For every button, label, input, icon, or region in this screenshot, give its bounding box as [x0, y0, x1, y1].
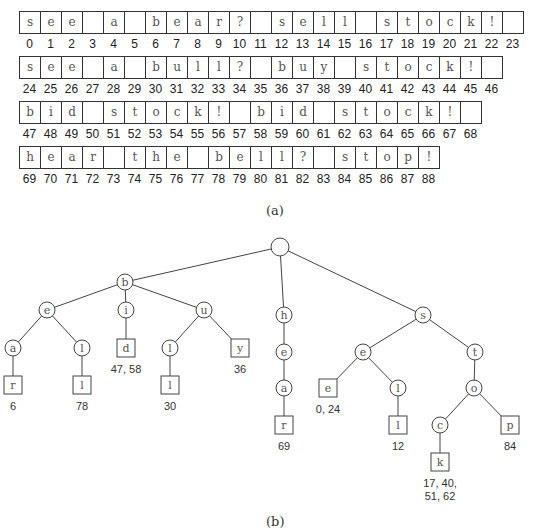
- array-cell: [314, 147, 335, 168]
- array-index: 62: [334, 127, 355, 141]
- array-cell: [335, 57, 356, 78]
- array-index: 35: [250, 82, 271, 96]
- trie-internal-node: e: [355, 344, 371, 360]
- array-index: 78: [208, 172, 229, 186]
- array-indices: 2425262728293031323334353637383940414243…: [19, 82, 503, 96]
- array-cell: i: [41, 102, 62, 123]
- trie-node-label: e: [44, 304, 51, 317]
- array-index: 59: [271, 127, 292, 141]
- trie-node-label: a: [10, 342, 17, 355]
- array-index: 23: [502, 37, 523, 51]
- trie-leaf-node: p: [501, 416, 519, 434]
- array-cell: e: [62, 12, 83, 33]
- array-cell: b: [251, 102, 272, 123]
- array-index: 37: [292, 82, 313, 96]
- array-cells: seeabull?buystock!: [19, 56, 503, 79]
- array-cell: e: [41, 147, 62, 168]
- array-indices: 4748495051525354555657585960616263646566…: [19, 127, 482, 141]
- trie-leaf-node: l: [161, 376, 179, 394]
- array-cell: [461, 102, 482, 123]
- array-index: 15: [334, 37, 355, 51]
- trie-edge: [125, 247, 280, 282]
- array-index: 43: [418, 82, 439, 96]
- array-cell: [251, 12, 272, 33]
- array-index: 79: [229, 172, 250, 186]
- occurrence-positions: 30: [164, 400, 176, 412]
- array-index: 30: [145, 82, 166, 96]
- array-index: 2: [61, 37, 82, 51]
- array-cell: e: [167, 147, 188, 168]
- array-index: 71: [61, 172, 82, 186]
- array-index: 57: [229, 127, 250, 141]
- caption-b: (b): [266, 514, 284, 529]
- array-index: 72: [82, 172, 103, 186]
- array-cell: ?: [230, 12, 251, 33]
- trie-node-label: e: [325, 382, 332, 395]
- array-index: 11: [250, 37, 271, 51]
- array-cell: [83, 12, 104, 33]
- array-cell: e: [293, 12, 314, 33]
- trie-internal-node: l: [162, 340, 178, 356]
- trie-edge: [363, 315, 423, 352]
- array-cell: !: [461, 57, 482, 78]
- trie-internal-node: u: [196, 302, 212, 318]
- array-index: 58: [250, 127, 271, 141]
- array-cell: l: [188, 57, 209, 78]
- array-index: 82: [292, 172, 313, 186]
- array-cell: ?: [293, 147, 314, 168]
- array-cell: u: [167, 57, 188, 78]
- array-index: 53: [145, 127, 166, 141]
- array-cell: s: [335, 147, 356, 168]
- text-array: seeabear?sellstock!012345678910111213141…: [0, 0, 536, 200]
- trie-node-label: h: [280, 309, 287, 322]
- trie-node-label: a: [281, 382, 288, 395]
- array-cell: [314, 102, 335, 123]
- array-cell: l: [314, 12, 335, 33]
- trie-node-label: e: [360, 346, 367, 359]
- array-cell: b: [272, 57, 293, 78]
- trie-edge: [47, 282, 125, 310]
- array-index: 31: [166, 82, 187, 96]
- array-row: seeabear?sellstock!012345678910111213141…: [19, 11, 524, 51]
- trie-node-label: k: [437, 456, 444, 469]
- array-index: 39: [334, 82, 355, 96]
- array-index: 17: [376, 37, 397, 51]
- array-index: 3: [82, 37, 103, 51]
- array-cell: l: [251, 147, 272, 168]
- array-index: 56: [208, 127, 229, 141]
- array-cell: [251, 57, 272, 78]
- compressed-trie: bhseiualdlyrllearetellocpk67847, 5830366…: [0, 230, 536, 525]
- trie-node-label: l: [396, 419, 400, 432]
- array-index: 22: [481, 37, 502, 51]
- array-index: 77: [187, 172, 208, 186]
- array-index: 5: [124, 37, 145, 51]
- array-cell: a: [104, 12, 125, 33]
- array-index: 87: [397, 172, 418, 186]
- trie-leaf-node: l: [389, 416, 407, 434]
- array-index: 28: [103, 82, 124, 96]
- array-indices: 01234567891011121314151617181920212223: [19, 37, 524, 51]
- array-cell: o: [377, 147, 398, 168]
- trie-node-label: l: [168, 379, 172, 392]
- occurrence-positions: 51, 62: [425, 490, 456, 502]
- trie-leaf-node: d: [117, 339, 135, 357]
- trie-internal-node: a: [5, 340, 21, 356]
- array-cell: h: [20, 147, 41, 168]
- array-cell: c: [419, 57, 440, 78]
- array-index: 38: [313, 82, 334, 96]
- trie-internal-node: e: [276, 344, 292, 360]
- trie-internal-node: o: [466, 380, 482, 396]
- array-row: bidstock!bidstock!4748495051525354555657…: [19, 101, 482, 141]
- array-cell: !: [440, 102, 461, 123]
- array-cell: [188, 147, 209, 168]
- array-cell: l: [335, 12, 356, 33]
- array-cell: [125, 12, 146, 33]
- array-index: 1: [40, 37, 61, 51]
- array-index: 70: [40, 172, 61, 186]
- array-cell: a: [62, 147, 83, 168]
- trie-node-label: s: [420, 309, 426, 322]
- occurrence-positions: 84: [504, 440, 516, 452]
- array-cell: s: [377, 12, 398, 33]
- array-cell: t: [398, 12, 419, 33]
- array-index: 83: [313, 172, 334, 186]
